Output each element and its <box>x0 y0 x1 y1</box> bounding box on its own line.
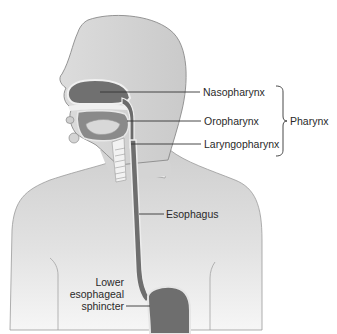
anatomy-diagram <box>0 0 337 334</box>
les-line-2: esophageal <box>62 288 124 300</box>
stomach <box>148 287 190 334</box>
label-laryngopharynx: Laryngopharynx <box>204 138 279 150</box>
les-line-1: Lower <box>62 276 124 288</box>
label-pharynx: Pharynx <box>290 115 329 127</box>
les-line-3: sphincter <box>62 300 124 312</box>
label-nasopharynx: Nasopharynx <box>203 86 265 98</box>
label-lower-esophageal-sphincter: Lower esophageal sphincter <box>62 276 124 312</box>
label-esophagus: Esophagus <box>166 208 219 220</box>
label-oropharynx: Oropharynx <box>204 115 259 127</box>
